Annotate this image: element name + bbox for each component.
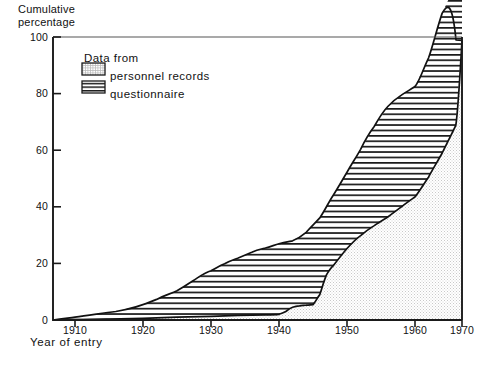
y-axis-title: Cumulative percentage [18,3,75,28]
x-tick-label-1970: 1970 [442,324,482,336]
legend-swatch-personnel-records [82,63,105,75]
x-tick-label-1920: 1920 [123,324,163,336]
legend-title: Data from [84,52,139,64]
legend-swatch-questionnaire [82,81,105,93]
y-axis-ticks [53,37,61,320]
x-tick-label-1930: 1930 [191,324,231,336]
y-tick-label-40: 40 [22,200,48,212]
legend-label-personnel-records: personnel records [110,70,210,82]
y-tick-label-60: 60 [22,144,48,156]
y-tick-label-80: 80 [22,87,48,99]
y-tick-label-0: 0 [22,314,48,326]
chart-figure: Cumulative percentage Year of entry 100 … [0,0,489,366]
plot-canvas [0,0,489,366]
x-tick-label-1940: 1940 [259,324,299,336]
y-tick-label-100: 100 [22,31,48,43]
x-tick-label-1960: 1960 [395,324,435,336]
y-tick-label-20: 20 [22,257,48,269]
legend-label-questionnaire: questionnaire [110,88,185,100]
x-tick-label-1910: 1910 [55,324,95,336]
x-tick-label-1950: 1950 [327,324,367,336]
x-axis-title: Year of entry [30,336,103,349]
